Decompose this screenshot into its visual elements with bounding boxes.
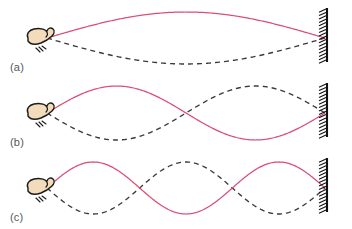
panel-a-first-harmonic: (a) xyxy=(0,0,352,76)
panel-label-b: (b) xyxy=(10,137,24,148)
wall-hatch-mark xyxy=(319,193,326,196)
wall-hatch-mark xyxy=(319,104,326,107)
wall-hatch-mark xyxy=(319,125,326,128)
hand-icon-a xyxy=(27,28,54,44)
motion-lines-b xyxy=(36,121,46,127)
wall-hatch-mark xyxy=(319,84,326,87)
wall-hatch-mark xyxy=(319,173,326,176)
wall-hatch-mark xyxy=(319,91,326,94)
wall-hatch-mark xyxy=(319,203,326,206)
fixed-wall-support-b xyxy=(319,83,327,138)
wall-hatch-mark xyxy=(319,207,326,210)
hand-icon-c xyxy=(27,178,54,194)
wall-hatch-mark xyxy=(319,128,326,131)
fixed-wall-support-a xyxy=(319,8,327,63)
wall-hatch-mark xyxy=(319,162,326,165)
wall-hatch-mark xyxy=(319,196,326,199)
wall-hatch-mark xyxy=(319,23,326,26)
hand-icon-b xyxy=(27,103,54,119)
wall-hatch-mark xyxy=(319,166,326,169)
wall-hatch-mark xyxy=(319,19,326,22)
wall-hatch-mark xyxy=(319,57,326,60)
wall-hatch-mark xyxy=(319,53,326,56)
solid-wave-b xyxy=(47,86,325,140)
wall-hatch-mark xyxy=(319,101,326,104)
panel-b-diagram xyxy=(0,75,352,151)
wall-hatch-mark xyxy=(319,9,326,12)
solid-wave-a xyxy=(47,12,325,38)
wall-hatch-mark xyxy=(319,108,326,111)
motion-lines-c xyxy=(36,196,46,202)
dashed-wave-a xyxy=(47,38,325,64)
standing-wave-figure: (a) (b) xyxy=(0,0,352,229)
wall-hatch-mark xyxy=(319,29,326,32)
dashed-wave-c xyxy=(47,162,325,214)
wall-hatch-mark xyxy=(319,46,326,49)
wall-hatch-mark xyxy=(319,190,326,193)
panel-label-a: (a) xyxy=(10,62,24,73)
hand-shaking-string-a xyxy=(27,28,54,52)
wall-hatch-mark xyxy=(319,60,326,63)
wall-hatch-mark xyxy=(319,26,326,29)
wave-group-c xyxy=(47,162,325,214)
wall-hatch-mark xyxy=(319,98,326,101)
solid-wave-c xyxy=(47,162,325,214)
panel-c-diagram xyxy=(0,150,352,226)
wall-hatch-mark xyxy=(319,87,326,90)
wave-group-a xyxy=(47,12,325,64)
wall-hatch-mark xyxy=(319,43,326,46)
wall-hatch-mark xyxy=(319,179,326,182)
wall-hatch-mark xyxy=(319,121,326,124)
panel-b-second-harmonic: (b) xyxy=(0,75,352,151)
wall-hatch-mark xyxy=(319,16,326,19)
wall-hatch-mark xyxy=(319,210,326,213)
panel-a-diagram xyxy=(0,0,352,76)
wall-hatch-marks-a xyxy=(319,9,326,63)
wall-hatch-mark xyxy=(319,176,326,179)
motion-lines-a xyxy=(36,46,46,52)
wall-hatch-mark xyxy=(319,12,326,15)
wall-hatch-mark xyxy=(319,94,326,97)
wall-hatch-mark xyxy=(319,200,326,203)
wall-hatch-mark xyxy=(319,159,326,162)
wall-hatch-mark xyxy=(319,50,326,53)
wall-hatch-mark xyxy=(319,169,326,172)
wall-hatch-mark xyxy=(319,33,326,36)
wall-hatch-mark xyxy=(319,118,326,121)
wave-group-b xyxy=(47,86,325,140)
panel-label-c: (c) xyxy=(10,212,23,223)
wall-hatch-mark xyxy=(319,132,326,135)
panel-c-third-harmonic: (c) xyxy=(0,150,352,226)
wall-hatch-mark xyxy=(319,135,326,138)
wall-hatch-mark xyxy=(319,40,326,43)
